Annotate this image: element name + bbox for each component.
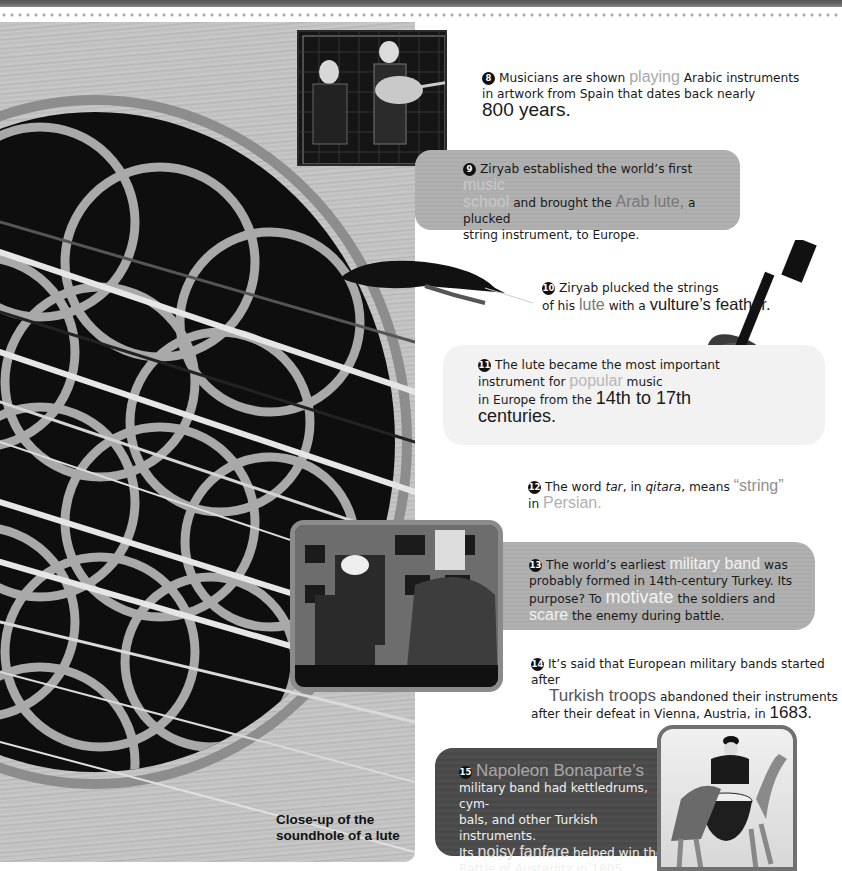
highlight-text: motivate (606, 587, 674, 607)
fact-text: Musicians are shown (499, 71, 625, 85)
fact-text: in (528, 497, 539, 511)
fact-11: 11The lute became the most important ins… (478, 357, 728, 426)
italic-word: tar (605, 480, 622, 494)
highlight-text: lute (579, 296, 605, 313)
musicians-icon (299, 32, 447, 166)
emphasis-text: vulture’s feather. (650, 295, 771, 313)
fact-text: was (764, 558, 788, 572)
fact-8: 8Musicians are shown playing Arabic inst… (482, 69, 812, 120)
photo-caption: Close-up of the soundhole of a lute (276, 812, 416, 844)
fact-14: 14It’s said that European military bands… (531, 656, 841, 722)
highlight-text: popular (569, 372, 622, 389)
header-band (0, 0, 842, 7)
fact-15: 15Napoleon Bonaparte’s military band had… (459, 763, 674, 871)
camel-kettledrum-image (657, 725, 797, 871)
fact-text: Ziryab established the world’s first (480, 162, 692, 176)
fact-text: with a (609, 299, 646, 313)
italic-word: qitara (645, 480, 681, 494)
fact-text: The world’s earliest (546, 558, 666, 572)
fact-text: Its (459, 846, 474, 860)
fact-text: probably formed in 14th-century Turkey. … (529, 574, 792, 588)
fact-text: Battle of Austerlitz in 1805. (459, 862, 626, 871)
fact-text: the soldiers and (677, 592, 775, 606)
fact-text: in Europe from the (478, 393, 592, 407)
fact-text: and brought the (513, 196, 612, 210)
musicians-painting (297, 30, 447, 166)
fact-number-badge: 15 (459, 766, 472, 779)
fact-number-badge: 8 (482, 72, 495, 85)
highlight-text: Persian. (543, 494, 602, 511)
fact-text: purpose? To (529, 592, 602, 606)
fact-text: music (627, 375, 663, 389)
highlight-text: Turkish troops (549, 686, 656, 705)
fact-text: It’s said that European military bands s… (531, 657, 825, 687)
highlight-text: “string” (734, 477, 784, 494)
fact-12: 12The word tar, in qitara, means “string… (528, 478, 828, 512)
fact-10: 10Ziryab plucked the strings of his lute… (542, 280, 842, 314)
fact-number-badge: 9 (463, 163, 476, 176)
emphasis-text: 800 years. (482, 99, 571, 120)
fact-text: bals, and other Turkish instruments. (459, 813, 598, 843)
feather-icon (335, 248, 535, 308)
fact-text: the enemy during battle. (572, 609, 724, 623)
highlight-text: music (463, 176, 505, 193)
fact-text: instrument for (478, 375, 565, 389)
military-band-icon (295, 525, 498, 687)
camel-icon (661, 729, 793, 871)
fact-9: 9Ziryab established the world’s first mu… (463, 161, 733, 243)
highlight-text: Arab lute, (616, 193, 684, 210)
caption-line-2: soundhole of a lute (276, 828, 416, 844)
fact-text: , in (623, 480, 642, 494)
highlight-text: playing (629, 68, 680, 85)
fact-text: string instrument, to Europe. (463, 228, 639, 242)
vulture-feather-image (335, 248, 535, 308)
emphasis-text: centuries. (478, 406, 556, 426)
fact-number-badge: 12 (528, 481, 541, 494)
highlight-text: noisy fanfare (478, 843, 570, 860)
fact-number-badge: 14 (531, 658, 544, 671)
fact-text: Arabic instruments (684, 71, 800, 85)
highlight-text: scare (529, 606, 568, 623)
fact-text: helped win the (573, 846, 663, 860)
highlight-text: military band (669, 555, 760, 572)
dotted-divider (0, 13, 842, 17)
fact-text: , means (681, 480, 730, 494)
emphasis-text: 1683. (770, 703, 813, 722)
fact-number-badge: 11 (478, 359, 491, 372)
highlight-text: school (463, 193, 509, 210)
fact-text: abandoned their instruments (660, 690, 838, 704)
emphasis-text: 14th to 17th (596, 388, 691, 408)
fact-text: of his (542, 299, 575, 313)
fact-number-badge: 10 (542, 282, 555, 295)
fact-13: 13The world’s earliest military band was… (529, 556, 809, 624)
military-band-photo (290, 520, 503, 692)
fact-text: The lute became the most important (495, 358, 720, 372)
fact-text: after their defeat in Vienna, Austria, i… (531, 707, 766, 721)
fact-text: Ziryab plucked the strings (559, 281, 719, 295)
highlight-text: Napoleon Bonaparte’s (476, 761, 644, 780)
fact-number-badge: 13 (529, 559, 542, 572)
fact-text: The word (545, 480, 602, 494)
caption-line-1: Close-up of the (276, 812, 416, 828)
fact-text: military band had kettledrums, cym- (459, 781, 648, 811)
